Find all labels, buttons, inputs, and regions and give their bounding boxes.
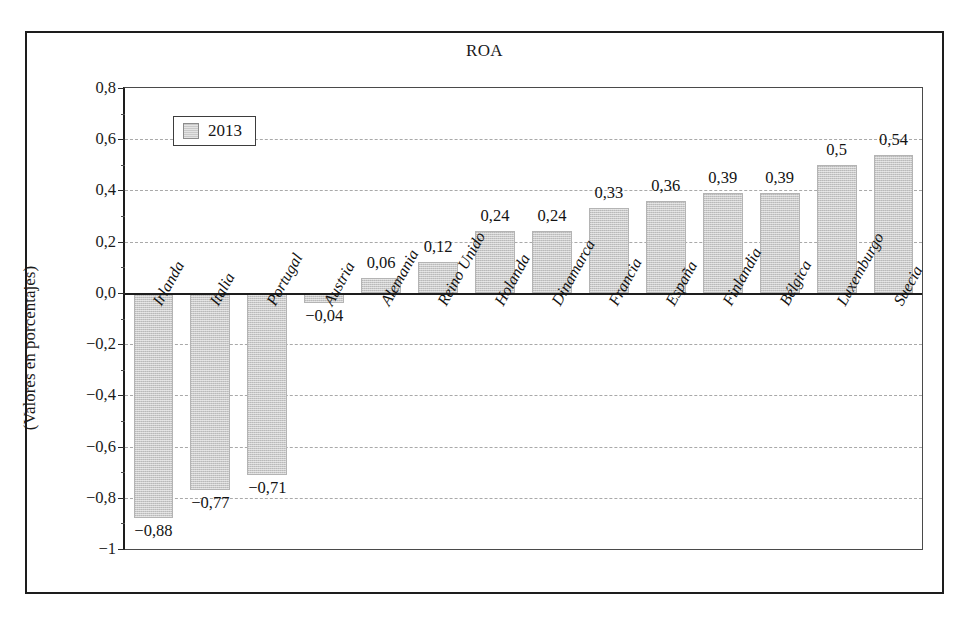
value-label-portugal: −0,71: [248, 478, 286, 498]
bar-slot: 0,33Francia: [580, 88, 637, 549]
chart-title: ROA: [27, 41, 942, 61]
y-tick-mark: [118, 447, 125, 448]
bar-slot: −0,71Portugal: [239, 88, 296, 549]
y-tick-mark: [118, 293, 125, 294]
bar-slot: 0,12Reino Unido: [410, 88, 467, 549]
bar-slot: 0,06Alemania: [353, 88, 410, 549]
y-tick-label: 0,0: [95, 283, 116, 303]
y-tick-mark: [118, 190, 125, 191]
y-tick-label: 0,6: [95, 129, 116, 149]
y-tick-mark: [118, 88, 125, 89]
value-label-reino-unido: 0,12: [424, 237, 453, 257]
bar-slot: −0,77Italia: [182, 88, 239, 549]
y-tick-mark: [118, 549, 125, 550]
bar-portugal[interactable]: [247, 293, 287, 475]
bar-slot: 0,24Dinamarca: [524, 88, 581, 549]
figure-frame: ROA (Valores en porcentajes) 0,80,60,40,…: [25, 31, 944, 594]
y-tick-label: −0,6: [86, 437, 116, 457]
y-tick-mark: [118, 139, 125, 140]
y-tick-label: −0,2: [86, 334, 116, 354]
y-tick-mark: [118, 498, 125, 499]
bar-slot: 0,24Holanda: [467, 88, 524, 549]
y-tick-label: −1: [98, 539, 116, 559]
bar-slot: 0,39Finlandia: [694, 88, 751, 549]
legend-swatch-2013: [183, 123, 199, 139]
plot-area: 0,80,60,40,20,0−0,2−0,4−0,6−0,8−1 −0,88I…: [123, 87, 923, 550]
value-label-italia: −0,77: [191, 493, 229, 513]
y-tick-label: 0,4: [95, 180, 116, 200]
value-label-irlanda: −0,88: [134, 521, 172, 541]
bar-slot: −0,04Austria: [296, 88, 353, 549]
legend-label-2013: 2013: [208, 121, 242, 141]
value-label-francia: 0,33: [594, 183, 623, 203]
bar-slot: −0,88Irlanda: [125, 88, 182, 549]
value-label-luxemburgo: 0,5: [826, 140, 847, 160]
bar-italia[interactable]: [190, 293, 230, 490]
value-label-holanda: 0,24: [481, 206, 510, 226]
bar-irlanda[interactable]: [134, 293, 174, 518]
bar-slot: 0,36España: [637, 88, 694, 549]
value-label-dinamarca: 0,24: [538, 206, 567, 226]
y-tick-mark: [118, 344, 125, 345]
category-label-italia: Italia: [206, 270, 239, 309]
zero-axis-line: [125, 293, 922, 295]
y-tick-label: −0,4: [86, 385, 116, 405]
y-tick-label: 0,2: [95, 232, 116, 252]
bar-slot: 0,5Luxemburgo: [808, 88, 865, 549]
value-label-bélgica: 0,39: [765, 168, 794, 188]
value-label-alemania: 0,06: [367, 253, 396, 273]
y-tick-mark: [118, 242, 125, 243]
value-label-suecia: 0,54: [879, 130, 908, 150]
legend[interactable]: 2013: [173, 116, 256, 146]
value-label-austria: −0,04: [305, 306, 343, 326]
value-label-finlandia: 0,39: [708, 168, 737, 188]
bar-slot: 0,39Bélgica: [751, 88, 808, 549]
y-tick-label: 0,8: [95, 78, 116, 98]
value-label-españa: 0,36: [651, 176, 680, 196]
y-tick-mark: [118, 395, 125, 396]
y-tick-label: −0,8: [86, 488, 116, 508]
y-axis-title: (Valores en porcentajes): [20, 233, 40, 463]
bar-slot: 0,54Suecia: [865, 88, 922, 549]
